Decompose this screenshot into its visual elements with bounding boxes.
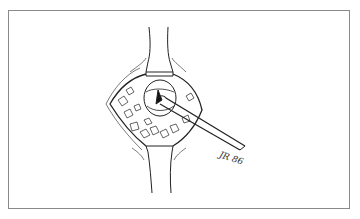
incision-right bbox=[173, 74, 202, 146]
surgical-illustration bbox=[0, 0, 360, 219]
surgical-instrument bbox=[158, 96, 245, 146]
upper-retractor bbox=[146, 27, 173, 72]
